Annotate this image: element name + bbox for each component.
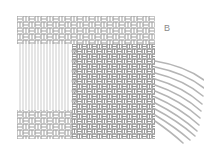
unwoven-warp-region: [17, 44, 76, 110]
dense-weave-region: [72, 44, 155, 139]
weave-diagram: [0, 0, 204, 149]
loose-threads: [155, 61, 204, 143]
figure-label: B: [164, 23, 170, 33]
